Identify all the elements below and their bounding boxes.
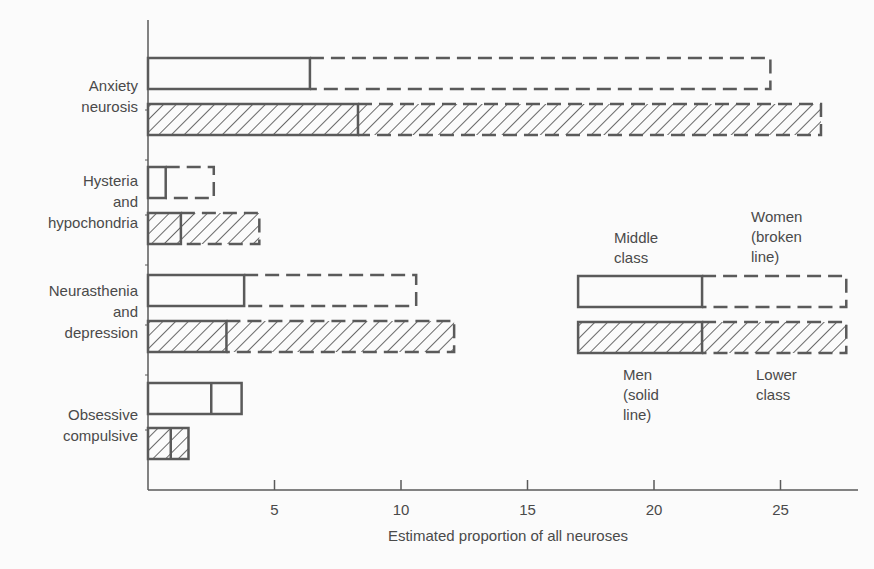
legend-label-middle-class: class <box>614 249 648 266</box>
men-bar <box>148 167 166 198</box>
women-bar <box>166 167 214 198</box>
men-bar <box>148 275 244 306</box>
category-label: Anxiety <box>89 77 139 94</box>
women-bar <box>244 275 416 306</box>
category-group <box>148 275 454 352</box>
hatch-fill <box>148 321 454 352</box>
category-group <box>148 58 821 135</box>
category-label: Obsessive <box>68 406 138 423</box>
legend-label-women: Women <box>751 208 802 225</box>
legend-middle-women <box>702 276 846 307</box>
category-label: Hysteria <box>83 172 139 189</box>
women-bar <box>148 428 188 459</box>
legend: MiddleclassWomen(brokenline)Men(solidlin… <box>578 208 846 423</box>
axes: 510152025 <box>145 20 858 518</box>
category-label: neurosis <box>81 98 138 115</box>
x-axis-label: Estimated proportion of all neuroses <box>388 527 628 544</box>
legend-label-lower-class: Lower <box>756 366 797 383</box>
category-group <box>148 383 242 459</box>
category-label: depression <box>65 324 138 341</box>
legend-label-men: Men <box>623 366 652 383</box>
x-tick-label: 25 <box>772 501 789 518</box>
men-bar <box>148 58 310 89</box>
legend-hatch <box>578 322 846 353</box>
women-bar <box>310 58 770 89</box>
legend-label-women: (broken <box>751 228 802 245</box>
legend-middle-men <box>578 276 702 307</box>
x-tick-label: 10 <box>393 501 410 518</box>
category-label: and <box>113 303 138 320</box>
neuroses-bar-chart: 510152025 AnxietyneurosisHysteriaandhypo… <box>0 0 874 569</box>
legend-label-men: (solid <box>623 386 659 403</box>
category-label: hypochondria <box>48 214 139 231</box>
category-group <box>148 167 259 244</box>
category-labels: AnxietyneurosisHysteriaandhypochondriaNe… <box>48 77 139 444</box>
hatch-fill <box>148 104 821 135</box>
legend-label-men: line) <box>623 406 651 423</box>
legend-label-women: line) <box>751 248 779 265</box>
x-tick-label: 20 <box>646 501 663 518</box>
bars <box>148 58 821 459</box>
legend-label-middle-class: Middle <box>614 229 658 246</box>
legend-label-lower-class: class <box>756 386 790 403</box>
category-label: compulsive <box>63 427 138 444</box>
hatch-fill <box>148 213 259 244</box>
category-label: and <box>113 193 138 210</box>
x-tick-label: 5 <box>270 501 278 518</box>
x-tick-label: 15 <box>519 501 536 518</box>
category-label: Neurasthenia <box>49 282 139 299</box>
women-bar <box>148 383 242 414</box>
